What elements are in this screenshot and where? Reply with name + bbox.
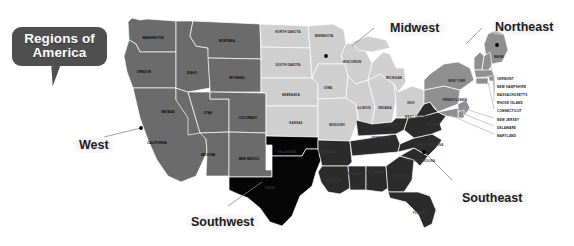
region-label-west[interactable]: West [74, 137, 114, 153]
leader-line-west [104, 128, 141, 137]
northeast-list-item: MASSACHUSETTS [497, 94, 527, 97]
northeast-list-item: DELAWARE [497, 127, 516, 130]
leader-line-northeast [466, 28, 482, 44]
regions-of-america-map: WASHINGTONOREGONCALIFORNIANEVADAIDAHOMON… [0, 0, 574, 246]
state-shape-northdakota [260, 24, 310, 48]
state-shape-mississippi [348, 166, 366, 190]
northeast-list-item: VERMONT [497, 78, 514, 81]
title-bubble-tail [51, 66, 61, 87]
region-label-southwest[interactable]: Southwest [186, 214, 259, 230]
state-shape-kansas [266, 106, 318, 137]
state-shape-connecticut [476, 78, 488, 84]
state-shape-newmexico [229, 132, 272, 177]
region-shape-west [124, 18, 272, 182]
state-shape-alabama [366, 166, 388, 192]
state-shape-newyork [424, 62, 474, 90]
region-shape-northeast [424, 30, 508, 118]
state-shape-arkansas [318, 140, 352, 166]
state-shape-newhampshire [482, 52, 492, 72]
state-shape-tennessee [350, 134, 400, 156]
title-line-2: America [16, 46, 103, 60]
northeast-list-item: RHODE ISLAND [497, 102, 523, 105]
dot-west [139, 126, 143, 130]
map-regions [124, 18, 508, 228]
state-shape-georgia [386, 156, 414, 192]
state-shape-florida [388, 192, 436, 228]
northeast-list-item: CONNECTICUT [497, 110, 522, 113]
state-shape-nebraska [261, 78, 318, 106]
title-line-1: Regions of [16, 32, 103, 46]
dot-midwest [324, 54, 328, 58]
region-label-midwest[interactable]: Midwest [385, 20, 444, 36]
region-label-northeast[interactable]: Northeast [490, 19, 558, 35]
leader-line-southeast [424, 152, 452, 180]
state-shape-missouri [318, 98, 358, 141]
state-shape-louisiana [318, 166, 350, 194]
title-callout: Regions of America [12, 27, 107, 66]
dot-southeast [422, 150, 426, 154]
state-shape-southdakota [261, 47, 312, 78]
dot-northeast [495, 43, 499, 47]
northeast-list-item: MARYLAND [497, 135, 516, 138]
northeast-list-item: NEW HAMPSHIRE [497, 86, 526, 89]
northeast-list-item: NEW JERSEY [497, 119, 519, 122]
region-label-southeast[interactable]: Southeast [457, 190, 527, 206]
state-shape-wyoming [208, 58, 261, 92]
state-shape-michigan-up [352, 36, 390, 52]
